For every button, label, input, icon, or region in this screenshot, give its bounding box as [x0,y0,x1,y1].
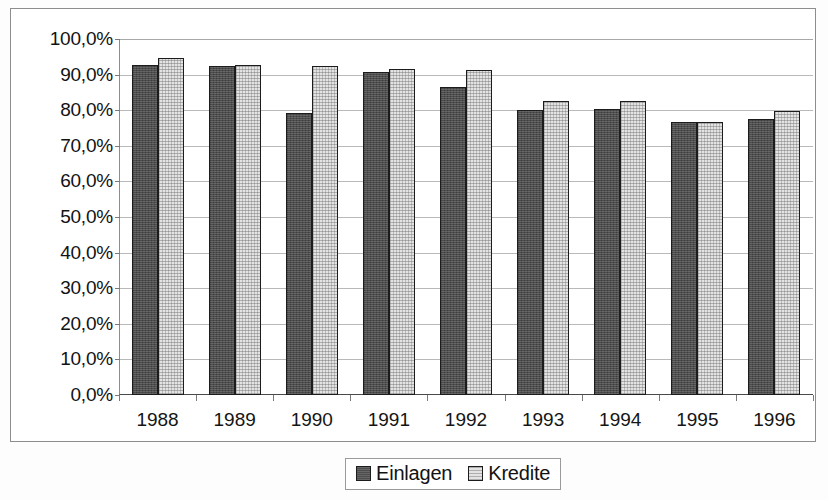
y-axis-tick-label: 50,0% [25,206,113,228]
y-axis-tick-label: 0,0% [25,384,113,406]
bar-einlagen-1992 [440,87,466,395]
bar-einlagen-1993 [517,110,543,396]
bar-kredite-1995 [697,122,723,395]
legend-entry-einlagen: Einlagen [356,462,452,485]
y-axis-tick-label: 100,0% [25,28,113,50]
bar-series-layer [119,39,813,395]
bar-kredite-1994 [620,101,646,395]
bar-kredite-1988 [158,58,184,395]
x-axis-tick-label: 1994 [599,409,641,431]
y-axis-tick-label: 10,0% [25,348,113,370]
bar-group [594,39,646,395]
x-axis-tick-mark [350,395,351,401]
legend-label-einlagen: Einlagen [376,462,452,485]
x-axis-tick-label: 1993 [522,409,564,431]
bar-kredite-1990 [312,66,338,395]
bar-group [363,39,415,395]
bar-kredite-1996 [774,111,800,395]
x-axis-tick-label: 1992 [445,409,487,431]
bar-kredite-1993 [543,101,569,395]
chart-screenshot: 0,0%10,0%20,0%30,0%40,0%50,0%60,0%70,0%8… [0,0,828,500]
x-axis-tick-mark [427,395,428,401]
y-axis-tick-label: 90,0% [25,64,113,86]
bar-einlagen-1988 [132,65,158,395]
chart-frame: 0,0%10,0%20,0%30,0%40,0%50,0%60,0%70,0%8… [10,8,816,442]
bar-kredite-1989 [235,65,261,395]
y-axis-tick-label: 40,0% [25,242,113,264]
y-axis-labels: 0,0%10,0%20,0%30,0%40,0%50,0%60,0%70,0%8… [25,39,113,395]
y-axis-tick-label: 20,0% [25,313,113,335]
x-axis-tick-mark [273,395,274,401]
bar-einlagen-1989 [209,66,235,395]
y-axis-tick-label: 80,0% [25,99,113,121]
chart-legend: Einlagen Kredite [345,458,561,490]
y-axis-tick-label: 30,0% [25,277,113,299]
legend-label-kredite: Kredite [488,462,550,485]
bar-einlagen-1995 [671,122,697,395]
x-axis-tick-label: 1989 [214,409,256,431]
bar-group [440,39,492,395]
bar-kredite-1992 [466,70,492,395]
bar-group [748,39,800,395]
bar-einlagen-1996 [748,119,774,395]
bar-einlagen-1994 [594,109,620,395]
x-axis-tick-mark [582,395,583,401]
x-axis-tick-label: 1991 [368,409,410,431]
x-axis-tick-label: 1990 [291,409,333,431]
x-axis-tick-mark [659,395,660,401]
bar-group [517,39,569,395]
x-axis-tick-label: 1995 [676,409,718,431]
x-axis-tick-label: 1996 [753,409,795,431]
bar-group [132,39,184,395]
y-axis-tick-label: 60,0% [25,170,113,192]
legend-swatch-einlagen-icon [356,466,371,481]
x-axis-labels: 198819891990199119921993199419951996 [119,409,813,439]
bar-einlagen-1991 [363,72,389,395]
bar-group [209,39,261,395]
legend-entry-kredite: Kredite [468,462,550,485]
y-axis-tick-label: 70,0% [25,135,113,157]
bar-group [671,39,723,395]
x-axis-tick-mark [505,395,506,401]
x-axis-tick-mark [813,395,814,401]
x-axis-tick-label: 1988 [136,409,178,431]
bar-einlagen-1990 [286,113,312,395]
x-axis-tick-mark [736,395,737,401]
legend-swatch-kredite-icon [468,466,483,481]
x-axis-tick-mark [196,395,197,401]
x-axis-tick-mark [119,395,120,401]
bar-group [286,39,338,395]
bar-kredite-1991 [389,69,415,395]
